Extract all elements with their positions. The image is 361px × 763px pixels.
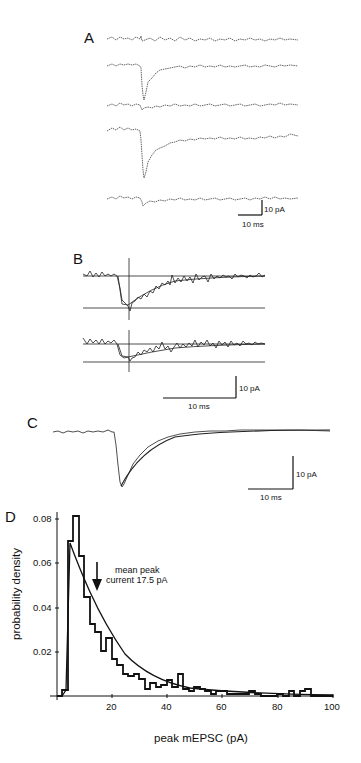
annotation-line-1: mean peak — [115, 565, 160, 575]
exponential-fit-curve — [62, 543, 333, 696]
figure-canvas: A 10 pA 10 ms B 10 pA 10 ms C — [0, 0, 361, 763]
histogram-steps — [57, 516, 333, 696]
panel-b-scale-time: 10 ms — [188, 402, 210, 411]
panel-c-label: C — [27, 414, 38, 431]
panel-a-label: A — [84, 29, 94, 46]
panel-a-scale-bar — [238, 200, 262, 215]
ytick-0-02: 0.02 — [33, 646, 52, 657]
panel-c-scale-time: 10 ms — [260, 493, 282, 502]
x-axis-label: peak mEPSC (pA) — [154, 732, 248, 744]
xtick-40: 40 — [161, 701, 172, 712]
panel-c-scale-bar — [248, 456, 293, 489]
panel-c-trace — [53, 430, 330, 487]
panel-d-label: D — [5, 508, 16, 525]
xtick-20: 20 — [106, 701, 117, 712]
histogram-axes — [50, 512, 334, 700]
y-axis-label: probability density — [10, 548, 22, 640]
xtick-60: 60 — [216, 701, 227, 712]
ytick-0-06: 0.06 — [33, 557, 52, 568]
panel-a-scale-current: 10 pA — [264, 205, 286, 214]
ytick-0-04: 0.04 — [33, 602, 52, 613]
panel-b-label: B — [73, 250, 83, 267]
trace-1 — [107, 36, 298, 41]
ytick-0-08: 0.08 — [33, 513, 52, 524]
trace-2 — [107, 64, 298, 100]
xtick-80: 80 — [272, 701, 283, 712]
trace-3 — [107, 103, 298, 110]
panel-c-scale-current: 10 pA — [296, 470, 318, 479]
panel-a-traces — [107, 36, 298, 206]
trace-4 — [107, 127, 298, 178]
panel-b-traces — [83, 271, 265, 361]
mean-peak-arrow-icon — [92, 562, 102, 591]
trace-b2-raw — [83, 338, 265, 361]
xtick-100: 100 — [324, 701, 340, 712]
annotation-line-2: current 17.5 pA — [106, 575, 168, 585]
panel-b-scale-current: 10 pA — [239, 384, 261, 393]
trace-c-raw — [53, 430, 330, 487]
panel-b-scale-bar — [163, 376, 236, 398]
panel-a-scale-time: 10 ms — [242, 220, 264, 229]
